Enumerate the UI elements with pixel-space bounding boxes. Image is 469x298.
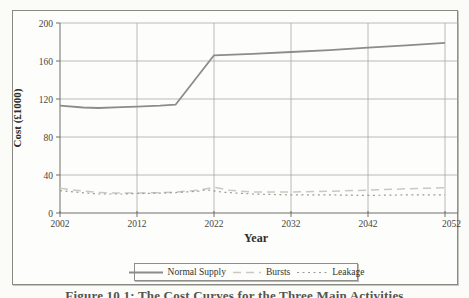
y-axis-title: Cost (£1000) [11,88,24,147]
line-chart: 04080120160200 200220122022203220422052 … [0,0,469,298]
x-tick-label: 2022 [205,219,224,229]
y-tick-label: 0 [48,209,53,219]
y-tick-label: 200 [39,19,54,29]
series-line-normal-supply [60,43,445,108]
x-tick-labels: 200220122022203220422052 [51,219,462,229]
y-tick-label: 80 [44,133,54,143]
normal-supply-line-sample-icon [128,270,164,275]
y-tick-label: 40 [44,171,54,181]
chart-legend: Normal Supply Bursts Leakage [134,263,358,281]
x-tick-label: 2012 [128,219,147,229]
leakage-line-sample-icon [296,270,328,275]
bursts-line-sample-icon [232,270,262,275]
legend-label: Bursts [266,267,290,277]
legend-item-normal-supply: Normal Supply [128,267,226,277]
x-tick-label: 2002 [51,219,70,229]
legend-label: Leakage [332,267,364,277]
x-axis-title: Year [244,231,269,245]
y-tick-label: 120 [39,95,54,105]
figure-caption: Figure 10.1: The Cost Curves for the Thr… [12,289,457,298]
x-tick-label: 2052 [442,219,461,229]
series-line-bursts [60,187,445,193]
x-tick-label: 2042 [359,219,378,229]
axis-lines [60,23,458,213]
legend-item-bursts: Bursts [232,267,290,277]
legend-label: Normal Supply [168,267,226,277]
x-tick-label: 2032 [282,219,301,229]
legend-item-leakage: Leakage [296,267,364,277]
axis-ticks [56,23,445,217]
y-tick-labels: 04080120160200 [39,19,54,219]
series-lines [60,43,445,196]
y-tick-label: 160 [39,57,54,67]
